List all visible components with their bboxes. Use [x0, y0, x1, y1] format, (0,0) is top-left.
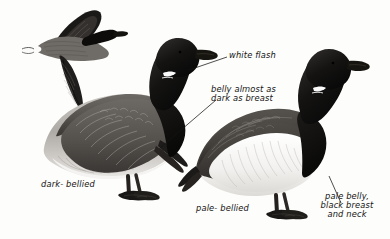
label-pale-belly-line3: and neck — [311, 210, 383, 220]
label-white-flash: white flash — [229, 51, 276, 61]
label-belly-dark-line2: dark as breast — [211, 94, 273, 104]
label-dark-bellied: dark- bellied — [41, 180, 95, 190]
bird-identification-plate: white flash belly almost as dark as brea… — [0, 0, 390, 239]
label-pale-bellied: pale- bellied — [196, 204, 249, 214]
